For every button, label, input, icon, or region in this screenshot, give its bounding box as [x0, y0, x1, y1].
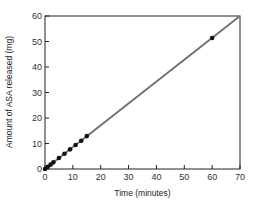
y-tick-label: 30	[32, 88, 42, 98]
y-axis-ticks: 0102030405060	[32, 11, 49, 174]
data-point	[62, 151, 67, 156]
x-tick-label: 30	[124, 172, 134, 182]
chart: 0102030405060 010203040506070 Time (minu…	[0, 0, 258, 205]
data-point	[79, 138, 84, 143]
data-point	[68, 147, 73, 152]
data-point	[73, 143, 78, 148]
x-tick-label: 70	[235, 172, 245, 182]
x-tick-label: 50	[179, 172, 189, 182]
y-tick-label: 60	[32, 11, 42, 21]
x-axis-title: Time (minutes)	[114, 188, 171, 198]
x-tick-label: 20	[96, 172, 106, 182]
y-axis-title: Amount of ASA released (mg)	[4, 36, 14, 148]
y-tick-label: 50	[32, 37, 42, 47]
y-tick-label: 20	[32, 113, 42, 123]
y-tick-label: 10	[32, 139, 42, 149]
x-tick-label: 0	[42, 172, 47, 182]
y-tick-label: 0	[37, 164, 42, 174]
data-point	[84, 134, 89, 139]
data-point	[57, 156, 62, 161]
data-point	[210, 36, 215, 41]
data-point	[51, 160, 56, 165]
x-axis-ticks: 010203040506070	[42, 165, 245, 182]
x-tick-label: 60	[207, 172, 217, 182]
y-tick-label: 40	[32, 62, 42, 72]
x-tick-label: 40	[151, 172, 161, 182]
x-tick-label: 10	[68, 172, 78, 182]
